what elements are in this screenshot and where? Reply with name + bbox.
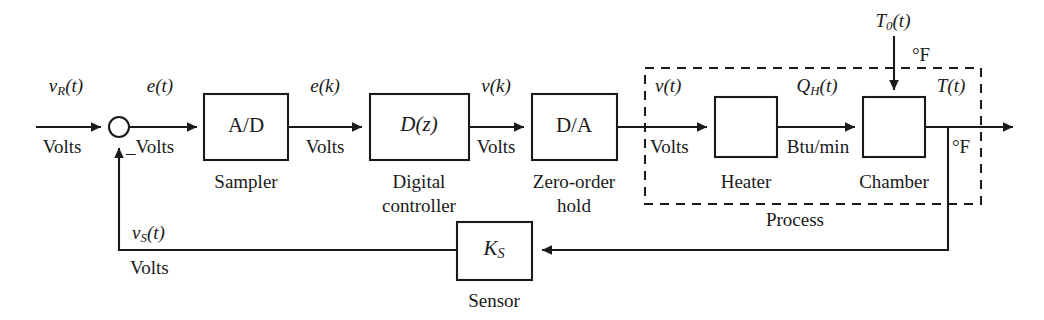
block-heater bbox=[715, 97, 777, 157]
label-reference-unit: Volts bbox=[43, 137, 82, 156]
label-reference-signal: vR(t) bbox=[49, 76, 83, 98]
label-control-continuous-signal: v(t) bbox=[655, 76, 681, 95]
label-error-sampled-unit: Volts bbox=[306, 137, 345, 156]
label-control-discrete-signal: v(k) bbox=[481, 76, 511, 95]
block-caption-heater: Heater bbox=[721, 172, 772, 191]
label-heat-flow-signal: QH(t) bbox=[797, 76, 838, 98]
block-caption-sensor: Sensor bbox=[468, 291, 520, 310]
block-caption-digital-line2: controller bbox=[382, 196, 456, 215]
block-label-sensor: KS bbox=[483, 238, 504, 260]
label-sensor-feedback-signal: vS(t) bbox=[132, 223, 165, 245]
block-chamber bbox=[863, 97, 925, 157]
block-caption-digital-line1: Digital bbox=[393, 172, 446, 191]
label-heat-flow-unit: Btu/min bbox=[787, 137, 849, 156]
block-diagram: vR(t) Volts e(t) _Volts A/D Sampler e(k)… bbox=[0, 0, 1044, 320]
block-caption-zoh-line2: hold bbox=[557, 196, 591, 215]
label-sensor-feedback-unit: Volts bbox=[130, 258, 169, 277]
block-label-da: D/A bbox=[556, 115, 592, 136]
label-control-discrete-unit: Volts bbox=[477, 137, 516, 156]
block-caption-zoh-line1: Zero-order bbox=[533, 172, 615, 191]
label-disturbance-signal: T0(t) bbox=[876, 11, 911, 33]
label-control-continuous-unit: Volts bbox=[650, 137, 689, 156]
label-temperature-unit: °F bbox=[952, 137, 970, 156]
label-temperature-signal: T(t) bbox=[937, 76, 966, 95]
label-error-sampled-signal: e(k) bbox=[310, 76, 340, 95]
label-error-continuous-unit: _Volts bbox=[126, 137, 174, 156]
block-caption-chamber: Chamber bbox=[859, 172, 929, 191]
block-caption-sampler: Sampler bbox=[214, 172, 277, 191]
block-label-ad: A/D bbox=[228, 115, 264, 136]
block-label-dz: D(z) bbox=[400, 114, 437, 135]
summing-junction bbox=[109, 117, 129, 137]
label-error-continuous-signal: e(t) bbox=[147, 76, 173, 95]
label-disturbance-unit: °F bbox=[912, 45, 930, 64]
group-label-process: Process bbox=[766, 210, 824, 229]
